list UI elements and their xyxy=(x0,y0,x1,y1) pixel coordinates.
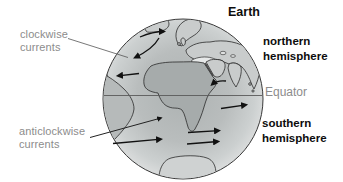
callout-anticlockwise-currents: anticlockwise currents xyxy=(19,125,85,151)
diagram-title: Earth xyxy=(228,5,260,19)
label-northern-line2: hemisphere xyxy=(263,49,328,64)
callout-clockwise-currents: clockwise currents xyxy=(20,28,68,54)
black-sea xyxy=(220,51,226,54)
label-northern-line1: northern xyxy=(263,34,328,49)
ireland-island xyxy=(178,43,181,46)
label-southern-line1: southern xyxy=(262,116,327,131)
callout-clockwise-line1: clockwise xyxy=(20,28,68,41)
pointer-line-clockwise xyxy=(68,39,128,58)
callout-anticlockwise-line2: currents xyxy=(19,138,85,151)
antarctica xyxy=(159,156,216,182)
callout-clockwise-line2: currents xyxy=(20,41,68,54)
label-southern-line2: hemisphere xyxy=(262,131,327,146)
earth-currents-diagram: Earth clockwise currents anticlockwise c… xyxy=(0,0,343,182)
label-equator: Equator xyxy=(265,85,307,99)
island-se-2 xyxy=(252,90,254,92)
label-southern-hemisphere: southern hemisphere xyxy=(262,116,327,146)
callout-anticlockwise-line1: anticlockwise xyxy=(19,125,85,138)
label-northern-hemisphere: northern hemisphere xyxy=(263,34,328,64)
island-se-1 xyxy=(249,83,252,86)
caspian-sea xyxy=(231,55,236,58)
